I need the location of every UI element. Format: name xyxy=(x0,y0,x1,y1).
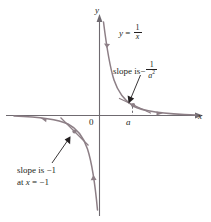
slope-at-neg1-line2: at x = −1 xyxy=(17,178,49,187)
curve-branch-negative xyxy=(14,116,98,210)
x-axis-label: x xyxy=(198,112,202,121)
function-fraction: 1 x xyxy=(134,24,142,41)
function-label: y = 1 x xyxy=(119,24,143,41)
slope-at-a-exponent: 2 xyxy=(152,69,155,75)
slope-at-a-label: slope is− 1 a2 xyxy=(113,61,158,80)
slope-at-neg1-variable: x xyxy=(26,177,30,187)
origin-label: 0 xyxy=(89,118,94,127)
tangent-point-a xyxy=(131,103,135,107)
function-equals: = xyxy=(125,28,130,38)
slope-at-a-fraction: 1 a2 xyxy=(146,61,157,80)
function-numerator: 1 xyxy=(134,24,142,32)
slope-at-a-text: slope is xyxy=(113,66,140,76)
slope-at-a-minus: − xyxy=(140,66,145,76)
leader-line-slope-neg1 xyxy=(52,140,68,163)
x-tick-label-a: a xyxy=(126,118,131,127)
slope-at-neg1-value: −1 xyxy=(39,177,49,187)
curve-arrow-upper xyxy=(104,44,110,49)
graph-svg xyxy=(0,0,211,222)
tangent-point-neg1 xyxy=(72,129,76,133)
leader-arrow-slope-neg1 xyxy=(52,136,71,163)
slope-at-neg1-prefix: at xyxy=(17,177,24,187)
leader-arrowhead-slope-a xyxy=(128,96,135,104)
slope-at-neg1-equals: = xyxy=(32,177,37,187)
slope-at-neg1-line1: slope is −1 xyxy=(17,166,56,175)
function-denominator: x xyxy=(134,32,142,41)
slope-at-a-denominator-group: a2 xyxy=(146,69,157,80)
y-axis-arrowhead xyxy=(97,14,103,22)
figure-canvas: y x 0 a y = 1 x slope is− 1 a2 slope is … xyxy=(0,0,211,222)
y-axis-label: y xyxy=(95,6,99,15)
function-lhs: y xyxy=(119,28,123,38)
slope-at-a-numerator: 1 xyxy=(146,61,157,69)
curve-arrow-lower xyxy=(91,175,97,180)
